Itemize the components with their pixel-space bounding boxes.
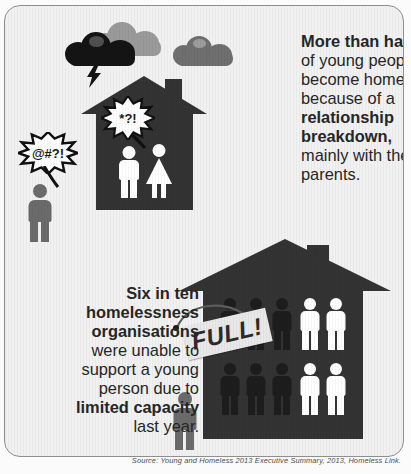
- bottom-scene: FULL! Six in ten homelessness organisati…: [5, 6, 404, 457]
- stat-bottom-text: Six in ten homelessness organisations we…: [4, 284, 199, 436]
- stat-bottom-line: person due to: [4, 379, 199, 398]
- stat-bottom-line: organisations: [4, 322, 199, 341]
- stat-bottom-line: support a young: [4, 360, 199, 379]
- stat-bottom-line: were unable to: [4, 341, 199, 360]
- infographic-card: *?! @#?! More than half of young peop: [4, 5, 404, 457]
- person-icon: [219, 363, 241, 415]
- stat-bottom-line: homelessness: [4, 303, 199, 322]
- stat-bottom-line: limited capacity: [4, 398, 199, 417]
- person-icon: [299, 363, 321, 415]
- person-icon: [245, 363, 267, 415]
- roof-icon: [179, 239, 391, 291]
- stat-bottom-line: Six in ten: [4, 284, 199, 303]
- stat-bottom-line: last year.: [4, 417, 199, 436]
- person-icon: [271, 363, 293, 415]
- source-citation: Source: Young and Homeless 2013 Executiv…: [0, 456, 411, 465]
- person-icon: [325, 298, 347, 350]
- person-icon: [325, 363, 347, 415]
- person-icon: [271, 298, 293, 350]
- person-icon: [299, 298, 321, 350]
